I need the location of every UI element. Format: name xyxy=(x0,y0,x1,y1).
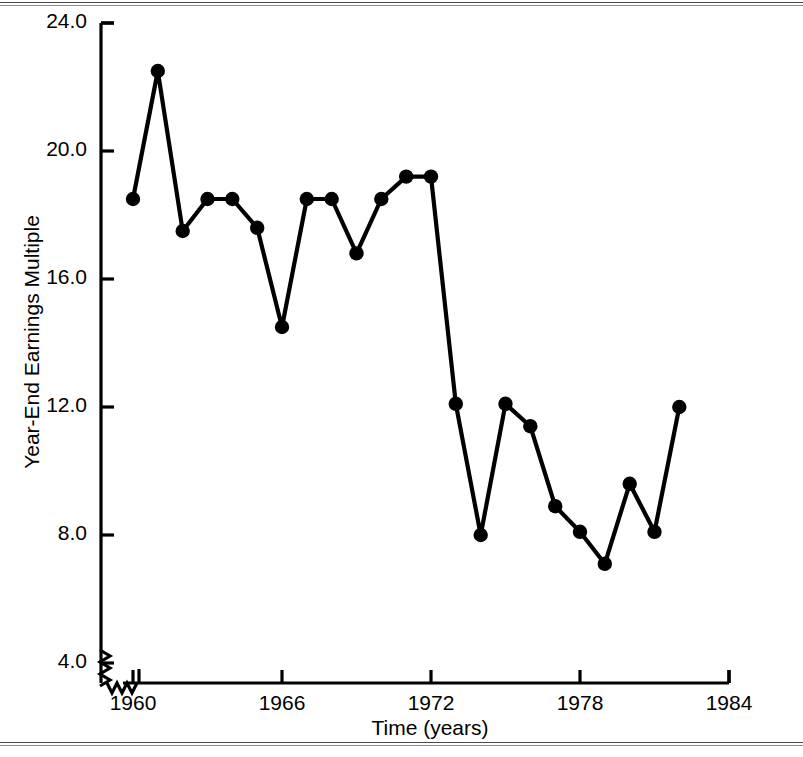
line-chart-plot xyxy=(0,0,803,757)
data-point-1980 xyxy=(623,477,637,491)
x-axis-title: Time (years) xyxy=(300,716,560,740)
data-point-1981 xyxy=(647,525,661,539)
data-point-1974 xyxy=(474,528,488,542)
data-point-1961 xyxy=(151,64,165,78)
x-tick-label-1966: 1966 xyxy=(237,691,327,715)
y-tick-label-4.0: 4.0 xyxy=(7,649,87,673)
data-point-1963 xyxy=(200,192,214,206)
x-tick-label-1984: 1984 xyxy=(684,691,774,715)
data-point-1970 xyxy=(374,192,388,206)
data-point-1964 xyxy=(225,192,239,206)
data-point-1967 xyxy=(300,192,314,206)
data-point-1960 xyxy=(126,192,140,206)
data-point-1979 xyxy=(598,557,612,571)
y-tick-label-12.0: 12.0 xyxy=(7,393,87,417)
y-tick-label-8.0: 8.0 xyxy=(7,521,87,545)
y-tick-label-16.0: 16.0 xyxy=(7,265,87,289)
y-axis-title: Year-End Earnings Multiple xyxy=(20,192,44,492)
data-point-1977 xyxy=(548,499,562,513)
data-point-1982 xyxy=(672,400,686,414)
x-tick-label-1978: 1978 xyxy=(535,691,625,715)
data-series-line xyxy=(133,71,679,564)
data-point-1973 xyxy=(449,397,463,411)
x-tick-label-1960: 1960 xyxy=(88,691,178,715)
data-point-1978 xyxy=(573,525,587,539)
data-point-1971 xyxy=(399,169,413,183)
data-point-1969 xyxy=(349,246,363,260)
data-point-1966 xyxy=(275,320,289,334)
x-tick-label-1972: 1972 xyxy=(386,691,476,715)
data-point-1976 xyxy=(523,419,537,433)
figure-container: Year-End Earnings Multiple Time (years) … xyxy=(0,0,803,757)
data-point-1968 xyxy=(325,192,339,206)
data-point-1965 xyxy=(250,221,264,235)
axes-group xyxy=(101,23,729,683)
data-point-markers xyxy=(126,64,687,571)
y-tick-label-24.0: 24.0 xyxy=(7,9,87,33)
y-tick-label-20.0: 20.0 xyxy=(7,137,87,161)
data-point-1975 xyxy=(498,397,512,411)
tick-marks-group xyxy=(101,23,729,683)
data-point-1972 xyxy=(424,169,438,183)
data-point-1962 xyxy=(176,224,190,238)
